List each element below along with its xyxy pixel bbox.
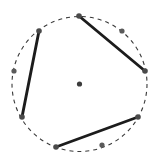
p-lower-right (135, 114, 141, 120)
chord-upper-right (79, 16, 145, 71)
chord-left (22, 31, 39, 117)
geometry-diagram-svg (0, 0, 155, 160)
center-point-layer (77, 81, 82, 86)
chord-bottom (56, 117, 138, 147)
circle-center-point (77, 81, 82, 86)
p-upper-left (36, 28, 42, 34)
p-right (142, 68, 148, 74)
p-bottom-right (99, 142, 104, 147)
p-top (76, 13, 82, 19)
p-upper-right (119, 28, 124, 33)
p-bottom (53, 144, 59, 150)
geometry-figure-canvas (0, 0, 155, 160)
p-lower-left (19, 114, 25, 120)
p-left (11, 68, 16, 73)
